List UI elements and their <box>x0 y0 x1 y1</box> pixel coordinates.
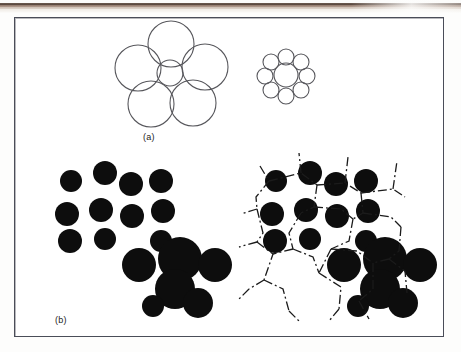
particle-circle <box>119 172 143 196</box>
ebbinghaus-right-center-circle <box>274 63 298 87</box>
particle-circle <box>354 169 378 193</box>
particle-circle <box>89 198 113 222</box>
particle-circle <box>198 248 232 282</box>
figure-frame: (a) (b) <box>14 17 444 337</box>
scanned-page: (a) (b) <box>0 0 461 352</box>
particle-circle <box>60 170 82 192</box>
scan-edge-stripe <box>0 0 461 13</box>
panel-a-ebbinghaus-circles <box>115 21 315 127</box>
particle-circle <box>93 161 117 185</box>
particle-circle <box>120 204 144 228</box>
tessellation-cell-boundary <box>249 280 264 289</box>
particle-circle <box>388 288 418 318</box>
particle-circle <box>403 248 437 282</box>
ebbinghaus-left-surround-circle <box>115 45 161 91</box>
particle-circle <box>299 228 321 250</box>
particle-circle <box>94 228 116 250</box>
particle-circle <box>356 199 380 223</box>
ebbinghaus-left-surround-circle <box>128 81 174 127</box>
particle-circle <box>122 248 156 282</box>
particle-circle <box>55 202 79 226</box>
particle-circle <box>327 248 361 282</box>
panel-label-b: (b) <box>55 315 67 325</box>
panel-b-left-particle-cluster <box>55 161 232 318</box>
scan-edge-stripe-fade <box>351 0 461 13</box>
panel-label-a: (a) <box>143 132 155 142</box>
particle-circle <box>151 199 175 223</box>
ebbinghaus-right-surround-circle <box>293 82 309 98</box>
figure-canvas <box>15 18 443 336</box>
tessellation-cell-boundary <box>239 242 257 247</box>
ebbinghaus-right-surround-circle <box>278 88 294 104</box>
particle-circle <box>325 204 349 228</box>
tessellation-cell-boundary <box>289 311 301 323</box>
particle-circle <box>347 295 369 317</box>
particle-circle <box>142 295 164 317</box>
tessellation-cell-boundary <box>237 289 249 301</box>
particle-circle <box>149 169 173 193</box>
particle-circle <box>298 161 322 185</box>
panel-b-right-particle-cluster <box>260 161 437 318</box>
particle-circle <box>260 202 284 226</box>
tessellation-cell-boundary <box>264 280 289 311</box>
tessellation-cell-boundary <box>293 249 319 273</box>
tessellation-cell-boundary <box>256 166 269 209</box>
particle-circle <box>58 229 82 253</box>
tessellation-cell-boundary <box>241 209 257 214</box>
tessellation-cell-boundary <box>329 309 339 321</box>
tessellation-cell-boundary <box>393 161 397 189</box>
particle-circle <box>183 288 213 318</box>
